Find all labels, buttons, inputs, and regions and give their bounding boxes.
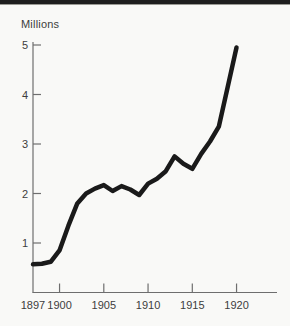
x-tick-label: 1910 — [136, 299, 160, 311]
y-tick-label: 5 — [22, 39, 28, 51]
y-tick-label: 4 — [22, 89, 28, 101]
y-tick-label: 1 — [22, 237, 28, 249]
x-tick-label: 1915 — [180, 299, 204, 311]
line-chart: 12345189719001905191019151920 — [0, 0, 290, 326]
y-tick-label: 3 — [22, 138, 28, 150]
x-tick-label: 1920 — [224, 299, 248, 311]
y-tick-label: 2 — [22, 188, 28, 200]
data-line — [33, 48, 237, 265]
x-tick-label: 1905 — [92, 299, 116, 311]
x-tick-label: 1900 — [47, 299, 71, 311]
x-tick-label: 1897 — [21, 299, 45, 311]
